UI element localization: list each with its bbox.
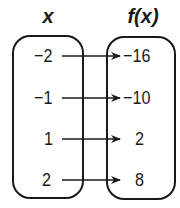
domain-value-1: −2 xyxy=(34,45,52,67)
range-value-1: −16 xyxy=(123,45,150,67)
domain-value-3: 1 xyxy=(44,128,53,150)
range-value-4: 8 xyxy=(135,169,144,191)
domain-value-4: 2 xyxy=(42,169,51,191)
range-value-2: −10 xyxy=(123,87,150,109)
domain-value-2: −1 xyxy=(34,87,52,109)
mapping-arrows xyxy=(0,0,180,208)
range-value-3: 2 xyxy=(135,128,144,150)
